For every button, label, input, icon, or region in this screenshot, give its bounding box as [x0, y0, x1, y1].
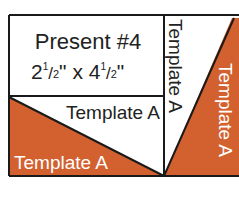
label-vertical-white: Template A: [165, 19, 186, 113]
quilt-block-diagram: Present #4 21/2" x 41/2" Template A Temp…: [0, 0, 239, 203]
label-bottom-triangle: Template A: [14, 152, 108, 173]
present-size: 21/2" x 41/2": [31, 60, 124, 83]
label-vertical-orange: Template A: [215, 63, 236, 157]
present-title: Present #4: [35, 29, 141, 54]
label-top-triangle: Template A: [66, 102, 160, 123]
